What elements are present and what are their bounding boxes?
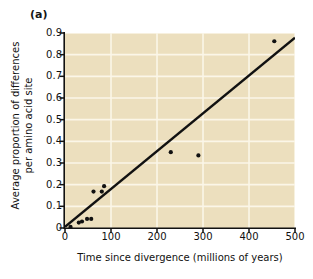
y-axis-tick-label: 0.9 [34, 28, 62, 38]
plot-canvas [65, 33, 295, 228]
data-point [100, 190, 104, 194]
y-axis-tick-label: 0.8 [34, 50, 62, 60]
x-axis-tick-label: 300 [183, 232, 223, 242]
data-point [169, 150, 173, 154]
x-axis-tick-label: 200 [137, 232, 177, 242]
y-axis-title-line-2: per amino acid site [22, 26, 35, 226]
y-axis-title-line-1: Average proportion of differences [10, 26, 23, 226]
x-axis-tick-label: 400 [229, 232, 269, 242]
data-point [91, 190, 95, 194]
plot-area [65, 33, 295, 228]
y-axis-tick-label: 0.6 [34, 93, 62, 103]
y-axis-tick-label: 0.7 [34, 71, 62, 81]
data-point [272, 39, 276, 43]
trendline [65, 38, 295, 227]
y-axis-tick-label: 0.2 [34, 180, 62, 190]
data-point [89, 217, 93, 221]
x-axis-tick-label: 100 [91, 232, 131, 242]
x-axis-title: Time since divergence (millions of years… [58, 252, 302, 264]
x-axis-tick-label: 0 [45, 232, 85, 242]
data-point [85, 217, 89, 221]
data-point [80, 219, 84, 223]
figure-panel: (a) 00.10.20.30.40.50.60.70.80.9 0100200… [0, 0, 313, 279]
horizontal-gridlines [65, 33, 295, 206]
x-axis-tick-label: 500 [275, 232, 313, 242]
data-point [102, 184, 106, 188]
data-point [68, 225, 72, 228]
y-axis-tick-label: 0.5 [34, 115, 62, 125]
y-axis-tick-label: 0.1 [34, 201, 62, 211]
vertical-gridlines [111, 33, 295, 228]
x-axis-tick-labels: 0100200300400500 [0, 232, 313, 246]
data-point [196, 153, 200, 157]
y-axis-tick-label: 0.4 [34, 136, 62, 146]
y-axis-tick-label: 0.3 [34, 158, 62, 168]
y-axis-title: Average proportion of differences per am… [10, 26, 35, 226]
